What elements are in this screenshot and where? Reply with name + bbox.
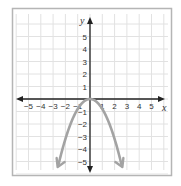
x-tick-label: 5 [149, 102, 154, 111]
y-tick-label: 1 [83, 83, 88, 92]
y-tick-label: 5 [83, 33, 88, 42]
y-tick-label: −3 [78, 133, 88, 142]
x-tick-label: −3 [49, 102, 59, 111]
y-tick-label: 2 [83, 70, 88, 79]
y-tick-label: 3 [83, 58, 88, 67]
x-tick-label: 2 [112, 102, 117, 111]
y-tick-label: 4 [83, 45, 88, 54]
x-tick-label: 3 [125, 102, 130, 111]
x-axis-label: x [161, 102, 167, 113]
y-tick-label: −5 [78, 158, 88, 167]
x-tick-label: −2 [61, 102, 71, 111]
coordinate-plane-graph: −5−4−3−2−11234554321−1−2−3−4−5 x y [0, 0, 181, 186]
x-tick-label: −5 [24, 102, 34, 111]
x-tick-label: −4 [36, 102, 46, 111]
y-tick-label: −4 [78, 145, 88, 154]
graph-frame [13, 9, 172, 176]
y-tick-label: −2 [78, 120, 88, 129]
y-axis-label: y [79, 15, 85, 26]
x-tick-label: 4 [137, 102, 142, 111]
